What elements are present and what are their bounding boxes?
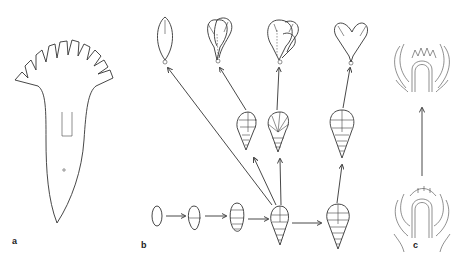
panel-c-apex-late [395, 44, 450, 92]
panel-a-corolla [15, 40, 113, 223]
panel-b-arrows [168, 68, 350, 205]
panel-label-c: c [413, 240, 418, 250]
panel-c-apex-early [394, 186, 450, 252]
panel-b-middle-row [237, 110, 354, 158]
diagram-svg [0, 0, 463, 263]
figure-canvas: a b c [0, 0, 463, 263]
panel-label-b: b [141, 240, 147, 250]
panel-label-a: a [12, 236, 17, 246]
panel-b-top-row [157, 17, 367, 65]
panel-b-bottom-row [152, 203, 349, 249]
